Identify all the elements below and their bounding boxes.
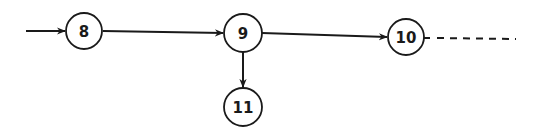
edge-10-continuation-dashed xyxy=(437,38,516,39)
node-label: 9 xyxy=(238,25,248,43)
flow-diagram: 8 9 10 11 xyxy=(0,0,538,139)
edge-9-to-10 xyxy=(262,33,387,37)
node-11: 11 xyxy=(224,88,262,126)
node-9: 9 xyxy=(224,14,262,52)
node-label: 8 xyxy=(79,23,89,41)
node-8: 8 xyxy=(66,13,102,49)
node-label: 11 xyxy=(233,99,254,117)
edge-8-to-9 xyxy=(103,31,223,33)
node-label: 10 xyxy=(396,29,417,47)
node-10: 10 xyxy=(388,19,424,55)
